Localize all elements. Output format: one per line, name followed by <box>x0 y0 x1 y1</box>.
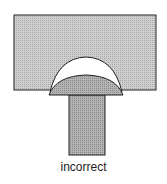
rivet-stem <box>69 95 105 155</box>
diagram-caption: incorrect <box>0 160 167 174</box>
rivet-diagram <box>0 0 167 184</box>
